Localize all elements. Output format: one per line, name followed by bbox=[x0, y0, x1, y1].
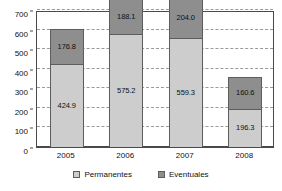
bar-value-eventuales-2006: 188.1 bbox=[117, 13, 135, 21]
legend-swatch-permanentes-icon bbox=[73, 171, 80, 178]
bar-value-permanentes-2006: 575.2 bbox=[117, 87, 135, 95]
y-tick-mark-0 bbox=[30, 148, 33, 149]
bars-layer: 176.8424.9188.1575.2204.0559.3160.6196.3 bbox=[37, 12, 273, 147]
bar-group-2005[interactable]: 176.8424.9 bbox=[50, 29, 84, 147]
bar-segment-eventuales-2008[interactable]: 160.6 bbox=[228, 77, 262, 108]
bar-value-permanentes-2007: 559.3 bbox=[177, 89, 195, 97]
x-axis: 2005200620072008 bbox=[36, 151, 274, 165]
x-tick-label-2007: 2007 bbox=[176, 151, 194, 161]
stacked-bar-chart: 0100200300400500600700 176.8424.9188.157… bbox=[0, 0, 282, 191]
y-tick-mark-100 bbox=[30, 128, 33, 129]
x-tick-label-2006: 2006 bbox=[116, 151, 134, 161]
bar-value-permanentes-2008: 196.3 bbox=[236, 124, 254, 132]
y-tick-mark-700 bbox=[30, 11, 33, 12]
bar-segment-eventuales-2006[interactable]: 188.1 bbox=[109, 0, 143, 34]
bar-value-eventuales-2008: 160.6 bbox=[236, 89, 254, 97]
bar-segment-permanentes-2006[interactable]: 575.2 bbox=[109, 34, 143, 147]
bar-group-2008[interactable]: 160.6196.3 bbox=[228, 77, 262, 147]
bar-segment-permanentes-2007[interactable]: 559.3 bbox=[169, 38, 203, 147]
legend-swatch-eventuales-icon bbox=[158, 171, 165, 178]
legend-item-eventuales[interactable]: Eventuales bbox=[158, 170, 209, 179]
y-axis: 0100200300400500600700 bbox=[0, 11, 33, 148]
y-tick-mark-400 bbox=[30, 69, 33, 70]
bar-segment-eventuales-2005[interactable]: 176.8 bbox=[50, 29, 84, 64]
y-tick-mark-200 bbox=[30, 108, 33, 109]
y-tick-mark-500 bbox=[30, 50, 33, 51]
bar-value-permanentes-2005: 424.9 bbox=[58, 102, 76, 110]
bar-segment-permanentes-2008[interactable]: 196.3 bbox=[228, 109, 262, 147]
y-tick-mark-300 bbox=[30, 89, 33, 90]
x-tick-label-2005: 2005 bbox=[57, 151, 75, 161]
x-tick-label-2008: 2008 bbox=[235, 151, 253, 161]
legend-label-permanentes: Permanentes bbox=[84, 170, 132, 179]
bar-group-2006[interactable]: 188.1575.2 bbox=[109, 0, 143, 147]
bar-segment-permanentes-2005[interactable]: 424.9 bbox=[50, 64, 84, 147]
plot-area: 176.8424.9188.1575.2204.0559.3160.6196.3 bbox=[36, 11, 274, 148]
gridline-700 bbox=[37, 9, 273, 10]
y-tick-mark-600 bbox=[30, 30, 33, 31]
bar-group-2007[interactable]: 204.0559.3 bbox=[169, 0, 203, 147]
bar-segment-eventuales-2007[interactable]: 204.0 bbox=[169, 0, 203, 38]
legend-item-permanentes[interactable]: Permanentes bbox=[73, 170, 132, 179]
bar-value-eventuales-2007: 204.0 bbox=[177, 14, 195, 22]
bar-value-eventuales-2005: 176.8 bbox=[58, 43, 76, 51]
legend-label-eventuales: Eventuales bbox=[169, 170, 209, 179]
chart-legend: PermanentesEventuales bbox=[0, 170, 282, 179]
